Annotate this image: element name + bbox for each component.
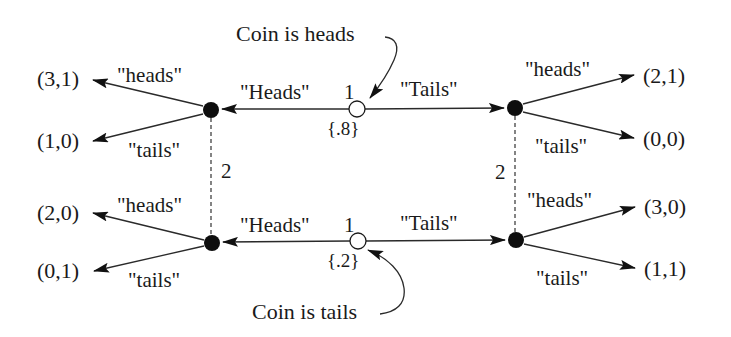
top-tails-move-label: "Tails" xyxy=(400,77,458,101)
payoff-2-1: (2,1) xyxy=(643,63,685,88)
left-player-2-label: 2 xyxy=(221,159,232,183)
payoff-2-0: (2,0) xyxy=(37,200,79,225)
top-right-decision-node xyxy=(507,100,523,116)
top-left-heads-label: "heads" xyxy=(117,63,182,87)
payoff-1-1: (1,1) xyxy=(644,256,686,281)
payoff-3-0: (3,0) xyxy=(644,194,686,219)
payoff-0-1: (0,1) xyxy=(37,258,79,283)
bottom-left-heads-label: "heads" xyxy=(117,193,182,217)
bottom-heads-move-label: "Heads" xyxy=(240,213,310,237)
bottom-right-heads-label: "heads" xyxy=(527,188,592,212)
bottom-chance-player-label: 1 xyxy=(344,213,355,237)
payoff-3-1: (3,1) xyxy=(37,66,79,91)
top-left-decision-node xyxy=(203,102,219,118)
bottom-heads-edge xyxy=(223,241,350,242)
diagram-canvas: Coin is heads Coin is tails "Heads" 1 "T… xyxy=(0,0,731,337)
bottom-left-heads-branch xyxy=(93,213,204,240)
top-right-tails-label: "tails" xyxy=(535,134,587,158)
payoff-0-0: (0,0) xyxy=(643,126,685,151)
top-left-tails-label: "tails" xyxy=(128,138,180,162)
bottom-probability-label: {.2} xyxy=(327,250,360,271)
bottom-right-tails-branch xyxy=(524,244,635,268)
bottom-tails-edge xyxy=(366,240,505,241)
bottom-left-tails-label: "tails" xyxy=(128,268,180,292)
bottom-left-decision-node xyxy=(204,235,220,251)
right-player-2-label: 2 xyxy=(495,160,506,184)
bottom-right-decision-node xyxy=(508,232,524,248)
top-heads-move-label: "Heads" xyxy=(240,80,310,104)
top-tails-edge xyxy=(365,108,504,109)
coin-heads-annotation: Coin is heads xyxy=(236,21,355,46)
top-chance-player-label: 1 xyxy=(344,80,355,104)
bottom-right-tails-label: "tails" xyxy=(536,266,588,290)
top-left-tails-branch xyxy=(93,114,203,141)
top-right-heads-label: "heads" xyxy=(525,57,590,81)
payoff-1-0: (1,0) xyxy=(37,128,79,153)
bottom-tails-move-label: "Tails" xyxy=(400,211,458,235)
game-tree-diagram: Coin is heads Coin is tails "Heads" 1 "T… xyxy=(0,0,731,337)
coin-heads-pointer xyxy=(370,37,397,98)
coin-tails-pointer xyxy=(368,250,404,314)
coin-tails-annotation: Coin is tails xyxy=(252,299,357,324)
top-probability-label: {.8} xyxy=(327,118,360,139)
